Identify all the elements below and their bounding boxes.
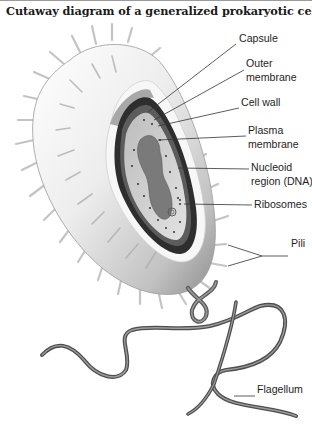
label-ribosomes: Ribosomes <box>254 197 307 211</box>
label-plasma-membrane-line2: membrane <box>248 137 299 151</box>
label-plasma-membrane-line1: Plasma <box>248 123 299 137</box>
label-nucleoid-line2: region (DNA) <box>251 174 312 188</box>
label-outer-membrane-line2: membrane <box>246 70 297 84</box>
label-plasma-membrane: Plasma membrane <box>248 123 299 151</box>
label-nucleoid: Nucleoid region (DNA) <box>251 160 312 188</box>
label-nucleoid-line1: Nucleoid <box>251 160 312 174</box>
label-flagellum: Flagellum <box>257 382 303 396</box>
label-cell-wall: Cell wall <box>241 95 280 109</box>
label-pili: Pili <box>291 236 305 250</box>
label-outer-membrane: Outer membrane <box>246 56 297 84</box>
label-capsule: Capsule <box>239 31 278 45</box>
label-outer-membrane-line1: Outer <box>246 56 297 70</box>
